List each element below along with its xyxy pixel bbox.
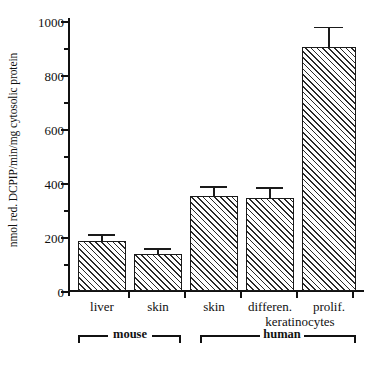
group-bracket-mouse: mouse: [78, 335, 181, 351]
y-tick-major-200: [61, 237, 68, 239]
x-label-differen: differen.: [248, 299, 292, 315]
y-tick-major-800: [61, 75, 68, 77]
plot-area: [68, 22, 362, 292]
y-tick-minor-300: [64, 210, 68, 212]
bracket-line-right-mouse: [152, 335, 181, 337]
y-tick-label-200: 200: [26, 232, 64, 245]
x-tick-5: [352, 292, 354, 298]
bar-liver: [78, 241, 126, 291]
error-cap-differen: [256, 187, 283, 189]
y-tick-major-600: [61, 129, 68, 131]
y-axis-title: nmol red. DCPIP/min/mg cytosolic protein: [7, 53, 19, 247]
error-stem-human-skin: [213, 188, 215, 196]
x-label-liver: liver: [90, 299, 114, 315]
y-tick-minor-700: [64, 102, 68, 104]
bracket-tick-right-human: [354, 335, 356, 343]
y-tick-label-600: 600: [26, 124, 64, 137]
y-tick-label-0: 0: [26, 286, 64, 299]
error-stem-mouse-skin: [157, 250, 159, 254]
group-label-mouse: mouse: [113, 327, 147, 342]
bracket-line-right-human: [304, 335, 356, 337]
error-stem-differen: [269, 189, 271, 198]
x-tick-3: [240, 292, 242, 298]
x-tick-1: [128, 292, 130, 298]
x-label-prolif: prolif.: [313, 299, 345, 315]
x-label-mouse-skin: skin: [147, 299, 169, 315]
y-axis-tick-labels: 1000 800 600 400 200 0: [20, 0, 64, 365]
y-tick-minor-500: [64, 156, 68, 158]
error-cap-human-skin: [200, 186, 227, 188]
group-bracket-human: human: [200, 335, 356, 351]
bracket-tick-right-mouse: [179, 335, 181, 343]
error-cap-liver: [88, 234, 115, 236]
error-cap-mouse-skin: [144, 248, 171, 250]
y-tick-label-400: 400: [26, 178, 64, 191]
y-tick-minor-900: [64, 48, 68, 50]
y-axis-line: [68, 18, 70, 296]
x-tick-4: [296, 292, 298, 298]
y-tick-minor-100: [64, 264, 68, 266]
bar-differen: [246, 198, 294, 291]
y-tick-major-400: [61, 183, 68, 185]
x-label-human-skin: skin: [203, 299, 225, 315]
bar-mouse-skin: [134, 254, 182, 291]
error-stem-prolif: [328, 28, 330, 47]
y-tick-label-1000: 1000: [26, 16, 64, 29]
error-cap-prolif: [314, 27, 343, 29]
bar-human-skin: [190, 196, 238, 291]
y-tick-label-800: 800: [26, 70, 64, 83]
group-label-human: human: [263, 327, 301, 342]
bar-chart-figure: nmol red. DCPIP/min/mg cytosolic protein…: [0, 0, 382, 365]
bracket-line-left-mouse: [78, 335, 108, 337]
y-tick-major-1000: [61, 21, 68, 23]
bar-prolif: [302, 47, 356, 291]
error-stem-liver: [101, 236, 103, 241]
x-tick-2: [184, 292, 186, 298]
bracket-line-left-human: [200, 335, 260, 337]
y-tick-major-0: [61, 291, 68, 293]
